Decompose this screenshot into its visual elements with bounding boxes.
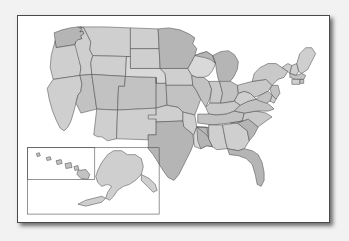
state-HI-island-3[interactable] [56, 160, 62, 165]
state-HI-island-5[interactable] [74, 166, 79, 171]
state-AK-aleutians[interactable] [78, 196, 106, 206]
state-FL[interactable] [227, 149, 264, 187]
inset-alaska-layer [78, 151, 157, 206]
state-MN[interactable] [158, 28, 197, 69]
state-CT[interactable] [292, 79, 300, 84]
figure-root [0, 0, 349, 241]
us-choropleth-map [18, 16, 329, 222]
state-HI-island-4[interactable] [65, 163, 72, 169]
state-ND[interactable] [130, 28, 159, 49]
state-AZ[interactable] [94, 109, 118, 141]
state-RI[interactable] [300, 79, 304, 83]
inset-box [27, 148, 159, 214]
inset-hawaii-layer [36, 153, 89, 180]
states-layer [47, 27, 315, 186]
state-MA[interactable] [290, 73, 306, 79]
map-panel [17, 15, 330, 223]
state-HI[interactable] [36, 153, 40, 157]
state-HI-big-island[interactable] [77, 170, 90, 180]
state-WY[interactable] [91, 56, 131, 77]
state-ME[interactable] [297, 48, 316, 74]
map-stage [18, 16, 329, 222]
state-HI-island-2[interactable] [46, 157, 51, 161]
state-SD[interactable] [130, 49, 160, 69]
state-AK[interactable] [96, 151, 144, 201]
state-AK-panhandle[interactable] [141, 174, 157, 192]
